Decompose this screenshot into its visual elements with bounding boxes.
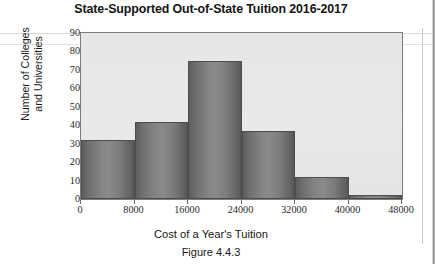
x-tick-label: 32000	[281, 204, 306, 215]
y-axis-title-line-1: Number of Colleges	[19, 27, 32, 121]
y-tick-label: 20	[60, 156, 80, 167]
x-tick-mark	[401, 200, 402, 204]
y-tick-label: 60	[60, 82, 80, 93]
y-tick-label: 70	[60, 63, 80, 74]
y-tick-label: 50	[60, 100, 80, 111]
y-axis-title-line-2: and Universities	[32, 36, 45, 111]
y-tick-label: 90	[60, 27, 80, 38]
y-tick-label: 30	[60, 137, 80, 148]
plot-area	[80, 32, 403, 200]
x-tick-mark	[241, 200, 242, 204]
scan-artifact-inner-edge	[422, 28, 423, 244]
x-tick-mark	[294, 200, 295, 204]
x-tick-label: 40000	[335, 204, 360, 215]
x-tick-label: 16000	[174, 204, 199, 215]
x-tick-mark	[80, 200, 81, 204]
x-tick-label: 0	[77, 204, 82, 215]
y-tick-label: 0	[60, 193, 80, 204]
histogram-bar	[349, 195, 403, 199]
chart-title: State-Supported Out-of-State Tuition 201…	[0, 2, 422, 16]
x-tick-mark	[187, 200, 188, 204]
histogram-bar	[188, 61, 242, 199]
x-tick-label: 24000	[228, 204, 253, 215]
histogram-bar	[135, 122, 189, 199]
x-tick-mark	[134, 200, 135, 204]
y-axis-ticks: 0102030405060708090	[56, 32, 80, 200]
figure-caption: Figure 4.4.3	[0, 246, 422, 258]
x-tick-label: 8000	[123, 204, 143, 215]
x-tick-label: 48000	[388, 204, 413, 215]
x-tick-mark	[348, 200, 349, 204]
histogram-bar	[242, 131, 296, 199]
histogram-bar	[81, 140, 135, 199]
histogram-bar	[295, 177, 349, 199]
x-axis-ticks: 080001600024000320004000048000	[80, 200, 403, 222]
y-tick-label: 10	[60, 174, 80, 185]
y-tick-label: 40	[60, 119, 80, 130]
x-axis-title: Cost of a Year's Tuition	[0, 228, 422, 240]
y-tick-label: 80	[60, 45, 80, 56]
y-axis-title: Number of Colleges and Universities	[15, 0, 49, 149]
